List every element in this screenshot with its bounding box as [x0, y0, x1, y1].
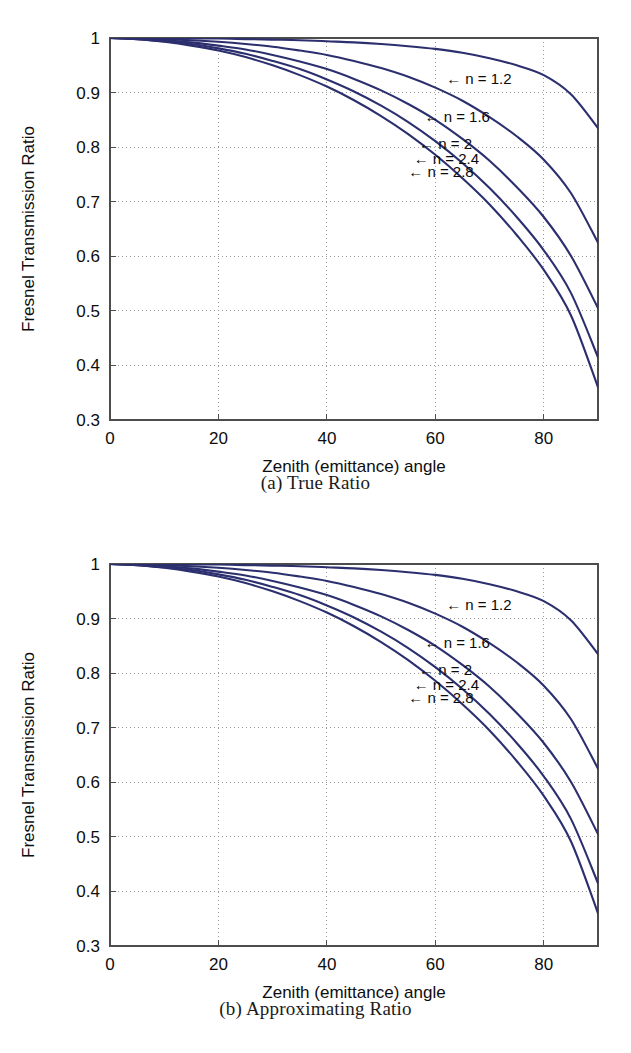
y-tick-label: 0.8	[76, 138, 100, 157]
x-tick-label: 0	[105, 955, 114, 974]
y-tick-label: 0.5	[76, 302, 100, 321]
series-group	[110, 38, 598, 387]
series-annotation: ← n = 2.8	[408, 689, 473, 706]
y-axis-title: Fresnel Transmission Ratio	[19, 652, 38, 858]
figure-root: 0.30.40.50.60.70.80.91020406080Zenith (e…	[0, 0, 631, 1053]
x-tick-label: 20	[209, 429, 228, 448]
x-tick-label: 40	[317, 429, 336, 448]
chart-a: 0.30.40.50.60.70.80.91020406080Zenith (e…	[0, 0, 631, 478]
x-tick-label: 80	[534, 955, 553, 974]
series-annotation: ← n = 1.6	[424, 108, 489, 125]
series-line	[110, 564, 598, 883]
series-annotation: ← n = 2.8	[408, 163, 473, 180]
series-group	[110, 564, 598, 913]
panel-approximating-ratio: 0.30.40.50.60.70.80.91020406080Zenith (e…	[0, 526, 631, 1052]
y-tick-label: 0.7	[76, 719, 100, 738]
y-axis-title: Fresnel Transmission Ratio	[19, 126, 38, 332]
x-tick-label: 20	[209, 955, 228, 974]
series-line	[110, 38, 598, 357]
plot-frame	[110, 38, 598, 420]
x-tick-label: 0	[105, 429, 114, 448]
y-tick-label: 0.3	[76, 937, 100, 956]
series-line	[110, 564, 598, 834]
series-annotation: ← n = 1.2	[446, 596, 511, 613]
y-tick-label: 1	[91, 29, 100, 48]
y-tick-label: 0.5	[76, 828, 100, 847]
x-tick-label: 60	[426, 429, 445, 448]
y-tick-label: 1	[91, 555, 100, 574]
gridlines	[110, 38, 598, 420]
y-tick-label: 0.9	[76, 610, 100, 629]
series-line	[110, 38, 598, 128]
y-tick-label: 0.8	[76, 664, 100, 683]
y-tick-label: 0.4	[76, 356, 100, 375]
x-tick-label: 40	[317, 955, 336, 974]
y-tick-label: 0.4	[76, 882, 100, 901]
x-tick-label: 60	[426, 955, 445, 974]
y-tick-label: 0.3	[76, 411, 100, 430]
chart-a-canvas: 0.30.40.50.60.70.80.91020406080Zenith (e…	[0, 0, 631, 478]
y-tick-label: 0.6	[76, 247, 100, 266]
series-line	[110, 38, 598, 308]
chart-b-canvas: 0.30.40.50.60.70.80.91020406080Zenith (e…	[0, 526, 631, 1004]
series-annotation: ← n = 1.2	[446, 70, 511, 87]
gridlines	[110, 564, 598, 946]
series-line	[110, 564, 598, 654]
x-axis-title: Zenith (emittance) angle	[262, 983, 445, 1002]
y-tick-label: 0.7	[76, 193, 100, 212]
y-tick-label: 0.6	[76, 773, 100, 792]
series-annotation: ← n = 1.6	[424, 634, 489, 651]
chart-b: 0.30.40.50.60.70.80.91020406080Zenith (e…	[0, 526, 631, 1004]
panel-true-ratio: 0.30.40.50.60.70.80.91020406080Zenith (e…	[0, 0, 631, 526]
y-tick-label: 0.9	[76, 84, 100, 103]
x-axis-title: Zenith (emittance) angle	[262, 457, 445, 476]
plot-frame	[110, 564, 598, 946]
x-tick-label: 80	[534, 429, 553, 448]
